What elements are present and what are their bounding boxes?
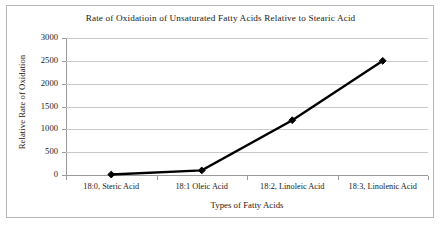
x-axis-title: Types of Fatty Acids [66, 200, 428, 210]
y-tick-label: 1000 [22, 124, 58, 133]
gridline [66, 107, 428, 108]
y-tick-mark [62, 107, 66, 108]
x-tick-mark [428, 176, 429, 180]
y-tick-mark [62, 38, 66, 39]
y-tick-mark [62, 129, 66, 130]
y-tick-label: 500 [22, 147, 58, 156]
y-tick-label: 3000 [22, 33, 58, 42]
y-tick-label: 2500 [22, 56, 58, 65]
gridline [66, 38, 428, 39]
y-tick-label: 2000 [22, 79, 58, 88]
x-tick-mark [338, 176, 339, 180]
gridline [66, 129, 428, 130]
chart-title: Rate of Oxidatioin of Unsaturated Fatty … [0, 13, 441, 23]
y-tick-mark [62, 152, 66, 153]
x-tick-label: 18:2, Linoleic Acid [247, 182, 338, 191]
gridline [66, 84, 428, 85]
gridline [66, 61, 428, 62]
y-tick-mark [62, 61, 66, 62]
x-tick-mark [247, 176, 248, 180]
x-tick-label: 18:0, Steric Acid [66, 182, 157, 191]
x-tick-label: 18:3, Linolenic Acid [338, 182, 429, 191]
y-tick-mark [62, 84, 66, 85]
y-tick-label: 1500 [22, 102, 58, 111]
x-tick-mark [66, 176, 67, 180]
x-tick-mark [157, 176, 158, 180]
gridline [66, 152, 428, 153]
chart-container: Rate of Oxidatioin of Unsaturated Fatty … [0, 0, 441, 226]
y-axis-title: Relative Rate of Oxidation [17, 32, 27, 172]
x-tick-label: 18:1 Oleic Acid [157, 182, 248, 191]
y-tick-label: 0 [22, 170, 58, 179]
